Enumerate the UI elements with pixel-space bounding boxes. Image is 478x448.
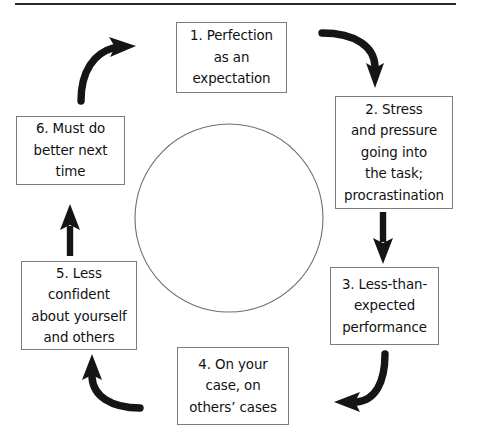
node-box-4-on-your-case[interactable]: 4. On your case, on others’ cases	[177, 347, 289, 425]
arrow-6-to-1	[81, 37, 136, 101]
center-circle	[135, 124, 323, 312]
arrow-1-to-2	[322, 33, 384, 88]
arrow-3-to-4	[334, 354, 385, 412]
node-label-6: 6. Must do better next time	[34, 118, 108, 183]
node-box-3-less-than-expected-performance[interactable]: 3. Less-than- expected performance	[330, 267, 439, 345]
arrow-4-to-5	[82, 354, 140, 408]
node-label-4: 4. On your case, on others’ cases	[189, 354, 277, 419]
node-label-3: 3. Less-than- expected performance	[342, 274, 427, 339]
arrow-5-to-6	[60, 204, 80, 256]
node-label-1: 1. Perfection as an expectation	[190, 25, 273, 90]
node-label-2: 2. Stress and pressure going into the ta…	[344, 99, 444, 207]
arrow-2-to-3	[373, 212, 393, 264]
node-box-5-less-confident[interactable]: 5. Less confident about yourself and oth…	[21, 261, 137, 350]
node-box-2-stress-and-pressure[interactable]: 2. Stress and pressure going into the ta…	[335, 96, 453, 209]
node-label-5: 5. Less confident about yourself and oth…	[31, 263, 126, 349]
diagram-canvas: 1. Perfection as an expectation 2. Stres…	[0, 0, 478, 448]
node-box-6-must-do-better-next-time[interactable]: 6. Must do better next time	[16, 116, 125, 185]
node-box-1-perfection-as-an-expectation[interactable]: 1. Perfection as an expectation	[176, 22, 287, 93]
